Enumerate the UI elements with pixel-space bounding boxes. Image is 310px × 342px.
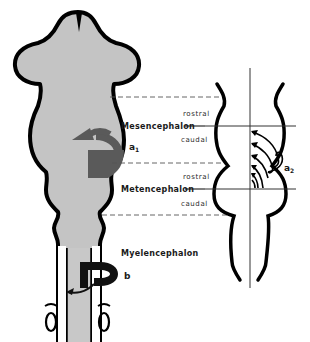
label-myelencephalon: Myelencephalon — [121, 250, 199, 258]
otic-arc-right — [98, 304, 110, 306]
label-metencephalon: Metencephalon — [121, 186, 194, 194]
otic-vesicle-left — [46, 313, 56, 331]
arrow-a1-band — [88, 150, 124, 178]
label-met-rostral: rostral — [183, 174, 210, 181]
label-met-caudal: caudal — [181, 201, 208, 208]
schematic-left-wall — [214, 84, 240, 280]
label-mesencephalon: Mesencephalon — [121, 123, 195, 131]
label-b: b — [124, 272, 130, 281]
label-a2-sub: 2 — [290, 167, 294, 174]
label-a1: a1 — [129, 143, 139, 153]
diagram-figure — [0, 0, 310, 342]
otic-arc-left — [45, 304, 57, 306]
diagram-canvas: rostral Mesencephalon caudal rostral Met… — [0, 0, 310, 342]
arrows-a2 — [252, 132, 282, 188]
label-a1-sub: 1 — [135, 146, 139, 153]
label-mes-rostral: rostral — [183, 111, 210, 118]
label-mes-caudal: caudal — [181, 137, 208, 144]
label-a2: a2 — [284, 164, 294, 174]
